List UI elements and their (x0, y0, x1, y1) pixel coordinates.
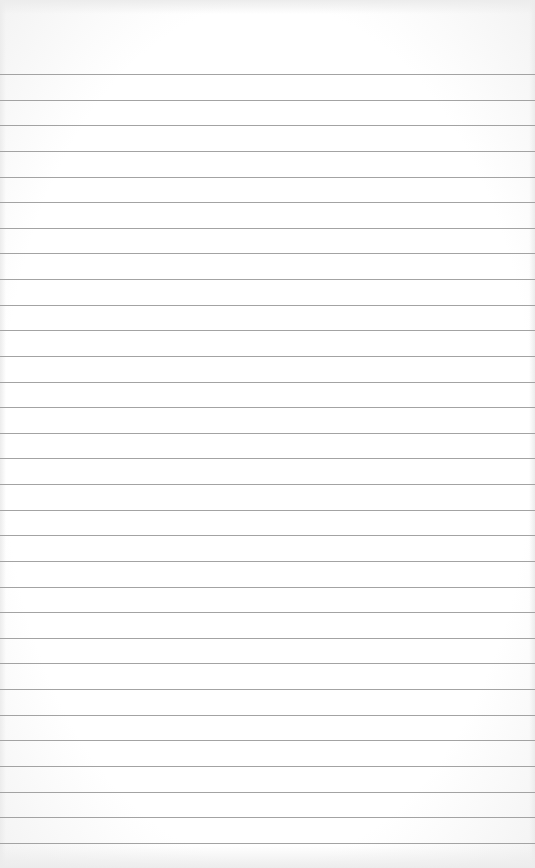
ruled-line (0, 433, 535, 434)
ruled-line (0, 766, 535, 767)
ruled-line (0, 356, 535, 357)
paper-bottom-edge (0, 846, 535, 868)
ruled-line (0, 740, 535, 741)
ruled-line (0, 792, 535, 793)
ruled-line (0, 330, 535, 331)
ruled-line (0, 305, 535, 306)
ruled-line (0, 561, 535, 562)
ruled-line (0, 612, 535, 613)
ruled-line (0, 100, 535, 101)
ruled-line (0, 484, 535, 485)
ruled-line (0, 843, 535, 844)
ruled-line (0, 535, 535, 536)
paper-right-edge (529, 0, 535, 868)
ruled-line (0, 228, 535, 229)
ruled-line (0, 382, 535, 383)
paper-left-edge (0, 0, 6, 868)
ruled-line (0, 407, 535, 408)
ruled-line (0, 663, 535, 664)
ruled-line (0, 74, 535, 75)
ruled-line (0, 279, 535, 280)
lined-paper-sheet (0, 0, 535, 868)
paper-top-edge (0, 0, 535, 14)
ruled-line (0, 638, 535, 639)
ruled-line (0, 125, 535, 126)
ruled-line (0, 151, 535, 152)
ruled-line (0, 510, 535, 511)
ruled-line (0, 202, 535, 203)
ruled-line (0, 253, 535, 254)
ruled-line (0, 587, 535, 588)
ruled-line (0, 458, 535, 459)
ruled-line (0, 715, 535, 716)
ruled-line (0, 177, 535, 178)
ruled-line (0, 817, 535, 818)
ruled-line (0, 689, 535, 690)
